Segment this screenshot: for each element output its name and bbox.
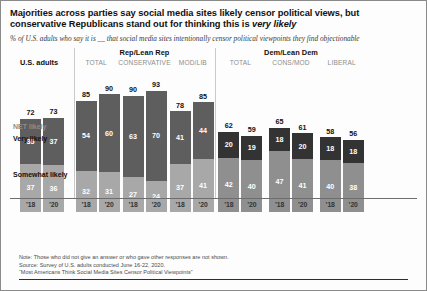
tick-spacer xyxy=(367,199,417,212)
x-tick-label: ’20 xyxy=(241,201,262,212)
tick-panel-rep-lean-rep: ’18’20’18’20’18’20 xyxy=(74,199,215,212)
x-tick-label: ’18 xyxy=(20,201,41,212)
x-tick-label: ’20 xyxy=(146,201,167,212)
chart-plot-area: U.S. adults723537733736Rep/Lean RepTOTAL… xyxy=(10,48,417,212)
x-tick-label: ’20 xyxy=(292,201,313,212)
tick-group: ’18’20 xyxy=(74,199,121,212)
chart-footer: Note: Those who did not give an answer o… xyxy=(19,254,408,280)
chart-legend: NET likelyVery likelySomewhat likely xyxy=(10,48,417,199)
tick-group: ’18’20 xyxy=(168,199,215,212)
x-tick-label: ’18 xyxy=(218,201,239,212)
footnote-note: Note: Those who did not give an answer o… xyxy=(19,254,408,261)
x-tick-label: ’18 xyxy=(269,201,290,212)
title-line-2: conservative Republicans stand out for t… xyxy=(10,19,252,29)
tick-group: ’18’20 xyxy=(316,199,367,212)
tick-group: ’18’20 xyxy=(215,199,266,212)
tick-group: ’18’20 xyxy=(121,199,168,212)
tick-group: ’18’20 xyxy=(10,199,74,212)
x-tick-label: ’20 xyxy=(43,201,64,212)
chart-figure: Majorities across parties say social med… xyxy=(0,0,427,291)
x-tick-label: ’18 xyxy=(123,201,144,212)
tick-group: ’18’20 xyxy=(266,199,317,212)
footnote-source: Source: Survey of U.S. adults conducted … xyxy=(19,262,408,269)
x-tick-label: ’18 xyxy=(170,201,191,212)
legend-label-net-likely: NET likely xyxy=(13,123,46,130)
x-tick-label: ’18 xyxy=(320,201,341,212)
page-title: Majorities across parties say social med… xyxy=(10,8,417,31)
x-tick-label: ’20 xyxy=(99,201,120,212)
title-line-1: Majorities across parties say social med… xyxy=(10,8,359,18)
x-tick-label: ’20 xyxy=(193,201,214,212)
legend-label-somewhat-likely: Somewhat likely xyxy=(13,171,67,178)
x-tick-label: ’20 xyxy=(343,201,364,212)
title-emphasis: very likely xyxy=(252,19,296,29)
x-tick-label: ’18 xyxy=(76,201,97,212)
tick-panel-dem-lean-dem: ’18’20’18’20’18’20 xyxy=(215,199,367,212)
tick-panel-us-adults: ’18’20 xyxy=(10,199,74,212)
footer-rule xyxy=(19,279,408,280)
legend-label-very-likely: Very likely xyxy=(13,135,47,142)
footnote-report: “Most Americans Think Social Media Sites… xyxy=(19,269,408,276)
x-axis-tick-row: ’18’20’18’20’18’20’18’20’18’20’18’20’18’… xyxy=(10,199,417,212)
chart-subtitle: % of U.S. adults who say it is __ that s… xyxy=(10,34,417,43)
